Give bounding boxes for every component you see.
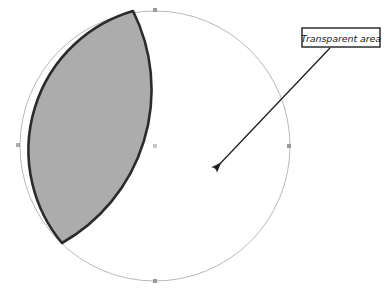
- anchor-circle-left: [16, 143, 20, 147]
- anchor-circle-right: [287, 144, 291, 148]
- anchor-circle-bottom: [153, 279, 157, 283]
- anchor-circle-top: [153, 8, 157, 12]
- shaded-lens-area: [28, 11, 151, 243]
- diagram-svg: Transparent area: [0, 0, 390, 290]
- callout-leader-line: [215, 48, 330, 169]
- callout-label: Transparent area: [301, 33, 381, 44]
- figure-canvas: Transparent area: [0, 0, 390, 290]
- anchor-circle-center: [153, 144, 157, 148]
